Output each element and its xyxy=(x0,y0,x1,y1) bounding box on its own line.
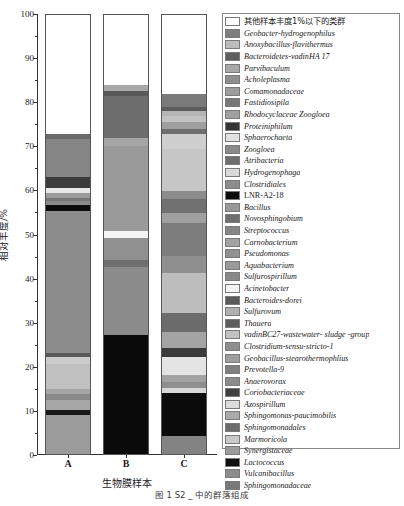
bar-segment[interactable] xyxy=(162,199,206,212)
bar-segment[interactable] xyxy=(162,382,206,388)
legend-item[interactable]: vadinBC27-wastewater- sludge -group xyxy=(225,329,398,341)
legend-item[interactable]: Acinetobacter xyxy=(225,283,398,295)
bar-segment[interactable] xyxy=(46,364,90,389)
bar-segment[interactable] xyxy=(46,353,90,356)
bar-segment[interactable] xyxy=(162,348,206,358)
bar-segment[interactable] xyxy=(104,15,148,85)
bar-segment[interactable] xyxy=(162,213,206,224)
legend-item[interactable]: Zoogloea xyxy=(225,144,398,156)
legend-item[interactable]: Rhodocyclaceae Zoogloea xyxy=(225,109,398,121)
bar-segment[interactable] xyxy=(46,134,90,138)
bar-segment[interactable] xyxy=(104,138,148,146)
legend-item[interactable]: Aquabacterium xyxy=(225,259,398,271)
legend-item[interactable]: Bacteroidetes-vadinHA 17 xyxy=(225,51,398,63)
legend-item[interactable]: Novosphingobium xyxy=(225,213,398,225)
bar-segment[interactable] xyxy=(46,415,90,455)
legend-item[interactable]: Atribacteria xyxy=(225,155,398,167)
bar-segment[interactable] xyxy=(46,256,90,353)
bar-segment[interactable] xyxy=(104,231,148,238)
legend-swatch xyxy=(225,411,240,420)
bar-segment[interactable] xyxy=(162,375,206,382)
legend-item[interactable]: Fastidiosipila xyxy=(225,97,398,109)
legend-swatch xyxy=(225,469,240,478)
legend-item[interactable]: Pseudomonas xyxy=(225,248,398,260)
bar-segment[interactable] xyxy=(104,260,148,267)
legend-item[interactable]: Thauera xyxy=(225,317,398,329)
legend-item[interactable]: Sulfurovum xyxy=(225,306,398,318)
bar-segment[interactable] xyxy=(46,400,90,411)
x-tick-label-B: B xyxy=(103,458,149,469)
bar-segment[interactable] xyxy=(104,267,148,335)
bar-segment[interactable] xyxy=(162,223,206,255)
legend-item[interactable]: Parvibaculum xyxy=(225,62,398,74)
bar-segment[interactable] xyxy=(46,211,90,256)
stacked-bar-C[interactable] xyxy=(161,14,207,455)
bar-segment[interactable] xyxy=(46,15,90,134)
bar-segment[interactable] xyxy=(46,177,90,188)
bar-segment[interactable] xyxy=(162,191,206,200)
bar-segment[interactable] xyxy=(104,146,148,231)
bar-segment[interactable] xyxy=(46,357,90,365)
bar-segment[interactable] xyxy=(104,96,148,138)
bar-segment[interactable] xyxy=(104,335,148,454)
legend-item[interactable]: 其他样本丰度1%以下的类群 xyxy=(225,16,398,28)
bar-segment[interactable] xyxy=(162,273,206,313)
legend-item[interactable]: Bacteroides-dorei xyxy=(225,294,398,306)
bar-segment[interactable] xyxy=(162,15,206,94)
bar-segment[interactable] xyxy=(162,107,206,111)
bar-segment[interactable] xyxy=(46,394,90,400)
bar-segment[interactable] xyxy=(162,436,206,454)
bar-segment[interactable] xyxy=(162,149,206,190)
legend-item[interactable]: Sphingomonas-paucimobilis xyxy=(225,410,398,422)
bar-segment[interactable] xyxy=(46,139,90,177)
legend-item[interactable]: Clostridium-sensu-stricto-1 xyxy=(225,341,398,353)
bar-segment[interactable] xyxy=(162,332,206,348)
bar-segment[interactable] xyxy=(46,410,90,414)
stacked-bar-A[interactable] xyxy=(45,14,91,455)
legend-item[interactable]: Sulfurospirillum xyxy=(225,271,398,283)
bar-segment[interactable] xyxy=(46,201,90,205)
legend-item[interactable]: Marmoricola xyxy=(225,433,398,445)
legend-item[interactable]: Carnobacterium xyxy=(225,236,398,248)
legend-item[interactable]: Hydrogenophaga xyxy=(225,167,398,179)
bar-segment[interactable] xyxy=(162,129,206,135)
bar-segment[interactable] xyxy=(46,198,90,201)
legend-item[interactable]: Azospirillum xyxy=(225,399,398,411)
bar-segment[interactable] xyxy=(46,188,90,193)
stacked-bar-B[interactable] xyxy=(103,14,149,455)
legend-item[interactable]: Bacillus xyxy=(225,202,398,214)
legend-item[interactable]: LNR-A2-18 xyxy=(225,190,398,202)
bar-segment[interactable] xyxy=(162,111,206,115)
legend-item[interactable]: Sphingomonadales xyxy=(225,422,398,434)
bar-segment[interactable] xyxy=(104,91,148,95)
bar-segment[interactable] xyxy=(46,193,90,197)
bar-segment[interactable] xyxy=(162,256,206,274)
bar-segment[interactable] xyxy=(162,94,206,107)
bar-segment[interactable] xyxy=(162,393,206,436)
legend-item[interactable]: Geobacillus-stearothermophlius xyxy=(225,352,398,364)
bar-segment[interactable] xyxy=(162,357,206,375)
legend-item[interactable]: Synergistaceae xyxy=(225,445,398,457)
bar-segment[interactable] xyxy=(104,85,148,91)
legend-item[interactable]: Proteiniphilum xyxy=(225,120,398,132)
legend-item[interactable]: Prevotella-9 xyxy=(225,364,398,376)
bar-segment[interactable] xyxy=(162,116,206,122)
bar-segment[interactable] xyxy=(46,389,90,394)
legend-item[interactable]: Anoxybacillus-flavithermus xyxy=(225,39,398,51)
bar-segment[interactable] xyxy=(162,122,206,129)
legend-item[interactable]: Clostridiales xyxy=(225,178,398,190)
bar-segment[interactable] xyxy=(104,238,148,260)
bar-segment[interactable] xyxy=(162,313,206,332)
bar-segment[interactable] xyxy=(162,388,206,393)
legend-item[interactable]: Comamonadaceae xyxy=(225,86,398,98)
legend-item[interactable]: Acholeplasma xyxy=(225,74,398,86)
legend-item[interactable]: Streptococcus xyxy=(225,225,398,237)
legend-item[interactable]: Anaerovorax xyxy=(225,375,398,387)
legend-item[interactable]: Lactococcus xyxy=(225,457,398,469)
bar-segment[interactable] xyxy=(46,205,90,211)
bar-segment[interactable] xyxy=(162,134,206,149)
legend-item[interactable]: Geobacter-hydrogenophilus xyxy=(225,28,398,40)
legend-item[interactable]: Vulcanibacillus xyxy=(225,468,398,480)
legend-item[interactable]: Sphaerochaeta xyxy=(225,132,398,144)
legend-item[interactable]: Coriobacteriaceae xyxy=(225,387,398,399)
